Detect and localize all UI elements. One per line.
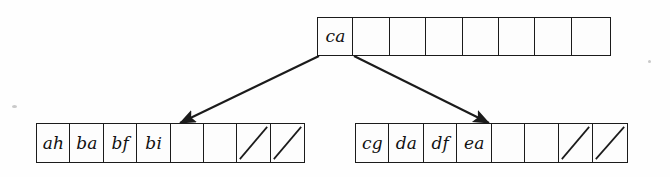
right-leaf-cell-3[interactable]: ea [456, 123, 492, 163]
left-leaf-cell-1[interactable]: ba [69, 123, 104, 163]
right-leaf-cell-6[interactable] [558, 123, 593, 163]
left-leaf-cell-0[interactable]: ah [36, 123, 71, 163]
pointer-root-to-right-leaf [354, 56, 489, 123]
right-leaf-cell-4[interactable] [491, 123, 526, 163]
root-cell-0-label: ca [325, 28, 345, 45]
empty-slot-slash-icon [237, 124, 270, 162]
root-cell-3[interactable] [425, 17, 463, 56]
empty-slot-slash-icon [271, 124, 304, 162]
scan-artifact [648, 60, 651, 63]
right-leaf-cell-2[interactable]: df [423, 123, 458, 163]
left-leaf-node: ah ba bf bi [36, 123, 305, 163]
root-cell-0[interactable]: ca [317, 17, 354, 56]
scan-artifact [12, 105, 17, 108]
root-node: ca [317, 17, 611, 56]
right-leaf-cell-0[interactable]: cg [355, 123, 390, 163]
right-leaf-cell-0-label: cg [362, 135, 383, 152]
right-leaf-cell-7[interactable] [592, 123, 628, 163]
empty-slot-slash-icon [593, 124, 627, 162]
left-leaf-cell-7[interactable] [270, 123, 305, 163]
left-leaf-cell-0-label: ah [43, 135, 64, 152]
left-leaf-cell-1-label: ba [76, 135, 97, 152]
pointer-root-to-left-leaf [180, 56, 319, 123]
right-leaf-cell-2-label: df [432, 135, 450, 152]
left-leaf-cell-5[interactable] [203, 123, 238, 163]
left-leaf-cell-3-label: bi [145, 135, 162, 152]
empty-slot-slash-icon [559, 124, 592, 162]
right-leaf-cell-1[interactable]: da [388, 123, 424, 163]
left-leaf-cell-4[interactable] [170, 123, 205, 163]
root-cell-2[interactable] [389, 17, 427, 56]
right-leaf-cell-5[interactable] [524, 123, 560, 163]
root-cell-1[interactable] [352, 17, 390, 56]
left-leaf-cell-2-label: bf [112, 135, 130, 152]
root-cell-7[interactable] [571, 17, 611, 56]
left-leaf-cell-6[interactable] [236, 123, 271, 163]
right-leaf-node: cg da df ea [355, 123, 628, 163]
right-leaf-cell-1-label: da [396, 135, 417, 152]
root-cell-5[interactable] [498, 17, 536, 56]
btree-figure: ca ah ba bf [0, 0, 670, 177]
right-leaf-cell-3-label: ea [464, 135, 485, 152]
root-cell-6[interactable] [534, 17, 572, 56]
root-cell-4[interactable] [462, 17, 500, 56]
left-leaf-cell-2[interactable]: bf [103, 123, 138, 163]
left-leaf-cell-3[interactable]: bi [136, 123, 171, 163]
